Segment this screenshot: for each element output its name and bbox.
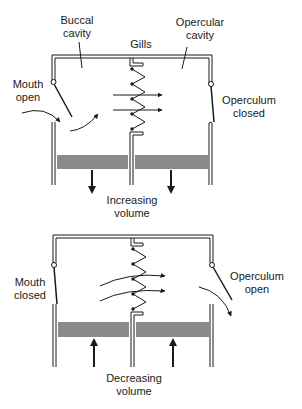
mouth-hinge [51,80,56,85]
bottom-piston-right [136,322,209,337]
label-line: closed [10,289,50,302]
label-line: volume [102,207,162,220]
top-gill-dots [130,67,133,130]
gill-filaments [132,69,145,129]
mouth-open-label: Mouth open [8,78,48,104]
buccal-flow-arrow [70,114,98,131]
top-piston-arrows [92,170,171,190]
label-line: Buccal [52,14,102,27]
label-line: Increasing [102,194,162,207]
label-line: Mouth [10,276,50,289]
decreasing-volume-label: Decreasing volume [102,372,166,398]
left-lower-wall [52,122,55,185]
increasing-volume-label: Increasing volume [102,194,162,220]
label-line: volume [102,385,166,398]
inflow-arrow [22,110,60,122]
opercular-cavity-label: Opercular cavity [170,16,230,42]
label-line: open [8,91,48,104]
operculum-closed-label: Operculum closed [218,94,280,120]
center-divider [130,135,133,185]
gills-label: Gills [126,38,156,51]
right-lower-wall [209,123,212,185]
label-line: Operculum [226,270,288,283]
label-line: cavity [52,27,102,40]
operculum-open-label: Operculum open [226,270,288,296]
operculum-hinge [209,82,214,87]
label-line: Opercular [170,16,230,29]
label-line: Operculum [218,94,280,107]
label-line: Decreasing [102,372,166,385]
bottom-panel [52,235,233,367]
mouth-closed-label: Mouth closed [10,276,50,302]
buccal-cavity-label: Buccal cavity [52,14,102,40]
label-line: open [226,283,288,296]
label-line: cavity [170,29,230,42]
bottom-piston-left [58,322,129,337]
operculum-flap [211,86,214,122]
top-piston-right [135,155,208,169]
label-line: closed [218,107,280,120]
top-piston-left [57,155,128,169]
bottom-gill-dots [131,247,134,310]
label-line: Mouth [8,78,48,91]
mouth-flap [54,84,72,117]
